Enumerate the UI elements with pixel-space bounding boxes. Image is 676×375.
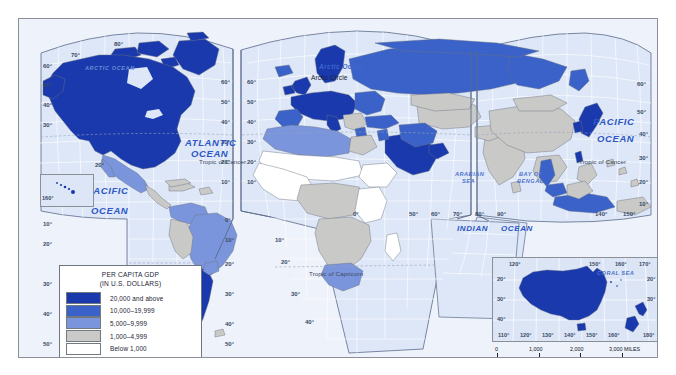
legend-swatch [66,305,101,317]
legend-label: 1,000–4,999 [110,333,147,340]
legend-swatch [66,317,101,329]
island-falklands [215,329,225,337]
scale-bar: 0 1,000 2,000 3,000 MILES 0 1,000 2,000 … [485,346,658,358]
scale-miles-label: 3,000 MILES [609,346,640,352]
hawaii-islands-graphic [41,175,93,206]
legend-title-line2: (IN U.S. DOLLARS) [66,280,195,289]
map-screenshot: 80° 70° 60° 50° 40° 30° 20° 10° 0° 10° 2… [0,0,676,375]
scale-miles-2000: 2,000 [570,346,584,352]
map-legend: PER CAPITA GDP (IN U.S. DOLLARS) 20,000 … [59,265,202,358]
legend-label: 5,000–9,999 [110,320,147,327]
legend-label: 20,000 and above [110,295,164,302]
world-map: 80° 70° 60° 50° 40° 30° 20° 10° 0° 10° 2… [18,18,658,358]
island-sri-lanka [511,181,521,193]
country-israel-levant [377,129,389,141]
legend-label: 10,000–19,999 [110,307,155,314]
australia-graphic [493,258,658,341]
scale-tick-bar [497,353,623,358]
legend-swatch [66,343,101,355]
legend-item: 20,000 and above [66,292,195,305]
legend-swatch [66,330,101,342]
country-south-korea [573,121,583,133]
legend-label: Below 1,000 [110,345,147,352]
legend-title: PER CAPITA GDP (IN U.S. DOLLARS) [66,271,195,288]
legend-item: 5,000–9,999 [66,317,195,330]
island-tasmania [577,323,586,331]
legend-swatch [66,292,101,304]
legend-item: 10,000–19,999 [66,305,195,318]
legend-item: 1,000–4,999 [66,330,195,343]
scale-miles-1000: 1,000 [529,346,543,352]
hawaii-inset-map: 160° [40,174,94,207]
legend-item: Below 1,000 [66,342,195,355]
legend-title-line1: PER CAPITA GDP [66,271,195,280]
scale-miles-0: 0 [495,346,498,352]
australia-inset-map: CORAL SEA 120° 150° 160° 170° 110° 120° … [492,257,658,342]
